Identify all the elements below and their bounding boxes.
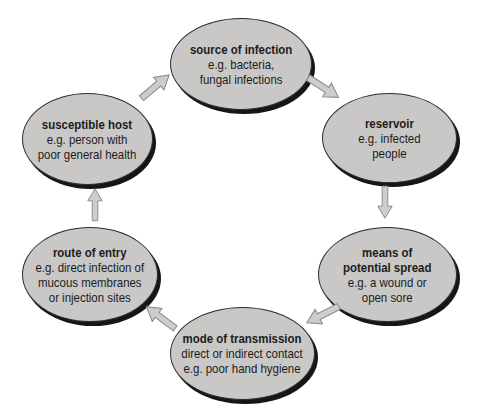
node-text: source of infection e.g. bacteria, funga…: [190, 42, 292, 87]
arrow-source-of-infection-to-reservoir-icon: [302, 69, 346, 107]
node-title: susceptible host: [38, 117, 137, 132]
node-line: e.g. a wound or: [343, 275, 431, 290]
node-text: route of entry e.g. direct infection of …: [36, 245, 145, 305]
node-mode-of-transmission: mode of transmission direct or indirect …: [170, 307, 315, 400]
arrow-reservoir-to-means-of-potential-spread-icon: [376, 185, 394, 220]
arrow-means-of-potential-spread-to-mode-of-transmission-icon: [300, 297, 344, 333]
node-source-of-infection: source of infection e.g. bacteria, funga…: [170, 18, 312, 110]
node-title: potential spread: [343, 260, 431, 275]
node-line: open sore: [343, 290, 431, 305]
node-line: people: [358, 146, 420, 161]
node-line: mucous membranes: [36, 275, 145, 290]
node-title: route of entry: [36, 245, 145, 260]
node-text: mode of transmission direct or indirect …: [182, 331, 303, 376]
node-line: e.g. direct infection of: [36, 260, 145, 275]
node-title: source of infection: [190, 42, 292, 57]
node-line: e.g. bacteria,: [190, 57, 292, 72]
node-text: susceptible host e.g. person with poor g…: [38, 117, 137, 162]
node-susceptible-host: susceptible host e.g. person with poor g…: [22, 93, 153, 185]
node-title: reservoir: [358, 116, 420, 131]
infection-cycle-diagram: source of infection e.g. bacteria, funga…: [0, 0, 479, 416]
node-title: means of: [343, 245, 431, 260]
arrow-route-of-entry-to-susceptible-host-icon: [86, 186, 104, 221]
node-line: e.g. infected: [358, 131, 420, 146]
node-line: e.g. person with: [38, 132, 137, 147]
node-line: poor general health: [38, 147, 137, 162]
node-title: mode of transmission: [182, 331, 303, 346]
node-text: reservoir e.g. infected people: [358, 116, 420, 161]
node-line: fungal infections: [190, 72, 292, 87]
node-reservoir: reservoir e.g. infected people: [322, 93, 457, 183]
node-line: direct or indirect contact: [182, 346, 303, 361]
node-text: means of potential spread e.g. a wound o…: [343, 245, 431, 305]
node-route-of-entry: route of entry e.g. direct infection of …: [22, 227, 158, 322]
arrow-mode-of-transmission-to-route-of-entry-icon: [138, 297, 182, 337]
node-line: e.g. poor hand hygiene: [182, 361, 303, 376]
node-line: or injection sites: [36, 290, 145, 305]
